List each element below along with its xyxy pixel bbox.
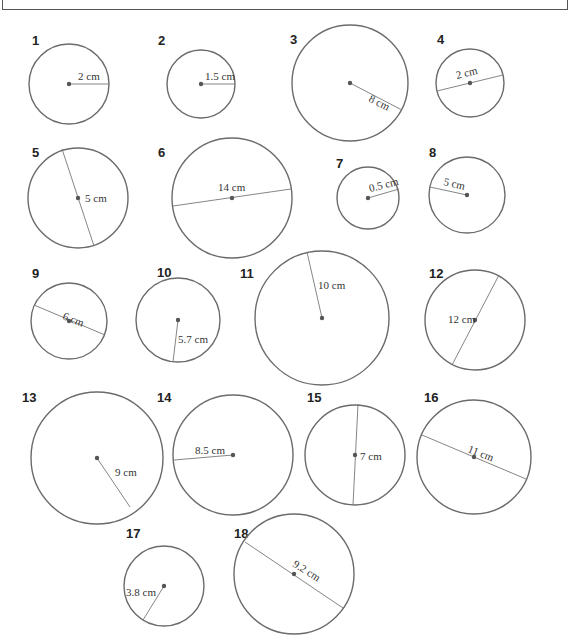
measurement-label: 3.8 cm xyxy=(126,586,156,598)
center-point xyxy=(353,453,357,457)
problem-number: 12 xyxy=(429,266,443,281)
problem-number: 4 xyxy=(437,32,445,47)
problem-number: 13 xyxy=(22,390,36,405)
measurement-label: 5.7 cm xyxy=(178,333,208,345)
problem-number: 15 xyxy=(307,390,321,405)
circle-problem-16: 1611 cm xyxy=(417,390,531,514)
problem-number: 8 xyxy=(429,145,436,160)
measurement-label: 5 cm xyxy=(85,192,107,204)
measurement-label: 9.2 cm xyxy=(291,558,323,584)
problem-number: 9 xyxy=(32,266,39,281)
problem-number: 17 xyxy=(126,526,140,541)
problem-number: 14 xyxy=(157,390,172,405)
circle-problem-3: 38 cm xyxy=(290,25,408,141)
center-point xyxy=(292,572,296,576)
center-point xyxy=(465,193,469,197)
measurement-label: 7 cm xyxy=(360,450,382,462)
circle-problem-18: 189.2 cm xyxy=(234,514,354,634)
circle-problem-6: 614 cm xyxy=(158,138,292,258)
measurement-label: 14 cm xyxy=(218,181,246,193)
problem-number: 6 xyxy=(158,145,165,160)
circle-problem-2: 21.5 cm xyxy=(158,33,235,118)
measurement-label: 1.5 cm xyxy=(205,70,235,82)
problem-number: 11 xyxy=(240,266,254,281)
problem-number: 5 xyxy=(32,145,39,160)
measurement-label: 10 cm xyxy=(318,279,346,291)
measurement-label: 8.5 cm xyxy=(195,444,225,456)
center-point xyxy=(176,318,180,322)
circle-problem-11: 1110 cm xyxy=(240,251,389,385)
measurement-label: 0.5 cm xyxy=(368,175,400,194)
circle-problem-4: 42 cm xyxy=(436,32,504,117)
center-point xyxy=(199,82,203,86)
problem-number: 3 xyxy=(290,32,297,47)
problem-number: 2 xyxy=(158,33,165,48)
circle-problem-5: 55 cm xyxy=(28,145,128,248)
problem-number: 1 xyxy=(32,33,39,48)
circle-problem-1: 12 cm xyxy=(29,33,109,124)
center-point xyxy=(162,584,166,588)
measurement-label: 2 cm xyxy=(455,64,479,81)
circle-problem-14: 148.5 cm xyxy=(157,390,293,515)
center-point xyxy=(320,316,324,320)
measurement-label: 5 cm xyxy=(443,175,467,192)
center-point xyxy=(468,81,472,85)
measurement-label: 6 cm xyxy=(61,310,86,329)
circle-problem-8: 85 cm xyxy=(429,145,505,233)
measurement-label: 8 cm xyxy=(367,92,392,113)
circle-problem-9: 96 cm xyxy=(31,266,107,359)
center-point xyxy=(231,453,235,457)
circle-problem-7: 70.5 cm xyxy=(336,156,400,229)
problem-number: 7 xyxy=(336,156,343,171)
center-point xyxy=(67,82,71,86)
circle-problem-15: 157 cm xyxy=(305,390,405,505)
center-point xyxy=(366,196,370,200)
circles-worksheet: 12 cm21.5 cm38 cm42 cm55 cm614 cm70.5 cm… xyxy=(0,0,572,644)
problem-number: 16 xyxy=(424,390,438,405)
problem-number: 10 xyxy=(157,265,171,280)
center-point xyxy=(95,456,99,460)
circle-problem-10: 105.7 cm xyxy=(136,265,220,362)
measurement-label: 9 cm xyxy=(115,466,137,478)
circle-problem-13: 139 cm xyxy=(22,390,163,524)
center-point xyxy=(76,196,80,200)
circle-problem-17: 173.8 cm xyxy=(124,526,204,626)
center-point xyxy=(230,196,234,200)
center-point xyxy=(348,81,352,85)
measurement-label: 12 cm xyxy=(448,313,476,325)
measurement-label: 2 cm xyxy=(78,70,100,82)
circle-problem-12: 1212 cm xyxy=(425,266,525,370)
